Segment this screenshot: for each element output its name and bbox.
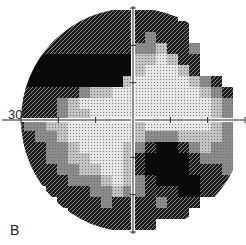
field-cell [46,164,57,175]
field-cell [112,54,123,65]
field-cell [200,175,211,186]
field-cell [57,76,68,87]
field-cell [90,10,101,21]
field-cell [101,32,112,43]
field-cell [46,21,57,32]
field-cell [24,153,35,164]
field-cell [189,54,200,65]
field-cell [79,65,90,76]
field-cell [79,21,90,32]
field-cell [145,21,156,32]
field-cell [112,197,123,208]
field-cell [35,153,46,164]
field-cell [90,76,101,87]
field-cell [112,219,123,230]
field-cell [189,65,200,76]
field-cell [134,153,145,164]
field-cell [35,175,46,186]
field-cell [178,153,189,164]
field-cell [68,43,79,54]
field-cell [167,186,178,197]
field-cell [156,21,167,32]
field-cell [156,164,167,175]
field-cell [101,65,112,76]
field-cell [57,65,68,76]
field-cell [211,164,222,175]
field-cell [57,175,68,186]
field-cell [90,54,101,65]
field-cell [35,164,46,175]
field-cell [68,76,79,87]
field-cell [200,164,211,175]
field-cell [79,219,90,230]
field-cell [35,54,46,65]
field-cell [145,197,156,208]
field-cell [211,186,222,197]
field-cell [101,21,112,32]
field-cell [156,208,167,219]
field-cell [167,153,178,164]
field-cell [145,142,156,153]
field-cell [68,65,79,76]
field-cell [211,76,222,87]
field-cell [90,208,101,219]
panel-label: B [10,222,19,238]
field-cell [145,186,156,197]
field-cell [35,43,46,54]
field-cell [156,10,167,21]
field-cell [101,43,112,54]
field-cell [167,208,178,219]
field-cell [101,54,112,65]
field-cell [46,76,57,87]
field-cell [167,164,178,175]
field-cell [134,32,145,43]
field-cell [13,131,24,142]
field-cell [134,197,145,208]
field-cell [68,54,79,65]
axis-degree-label: 30° [8,107,28,122]
field-cell [90,43,101,54]
field-cell [68,208,79,219]
field-cell [68,10,79,21]
field-cell [112,32,123,43]
field-cell [134,208,145,219]
field-cell [35,32,46,43]
field-cell [145,164,156,175]
field-cell [167,197,178,208]
visual-field-plot [0,0,246,245]
field-cell [200,186,211,197]
field-cell [79,208,90,219]
field-cell [24,76,35,87]
field-cell [222,87,233,98]
field-cell [79,186,90,197]
field-cell [156,175,167,186]
field-cell [24,65,35,76]
field-cell [90,197,101,208]
field-cell [13,76,24,87]
field-cell [112,76,123,87]
field-cell [167,43,178,54]
field-cell [211,175,222,186]
field-cell [46,32,57,43]
field-cell [156,32,167,43]
field-cell [13,87,24,98]
field-cell [167,21,178,32]
field-cell [90,32,101,43]
field-cell [24,87,35,98]
field-cell [57,43,68,54]
field-cell [112,21,123,32]
field-cell [35,65,46,76]
field-cell [145,175,156,186]
field-cell [178,197,189,208]
field-cell [189,153,200,164]
field-cell [13,142,24,153]
field-cell [90,219,101,230]
field-cell [145,219,156,230]
field-cell [24,131,35,142]
field-cell [35,87,46,98]
field-cell [101,208,112,219]
field-cell [178,208,189,219]
field-cell [112,10,123,21]
field-cell [156,186,167,197]
field-cell [46,87,57,98]
